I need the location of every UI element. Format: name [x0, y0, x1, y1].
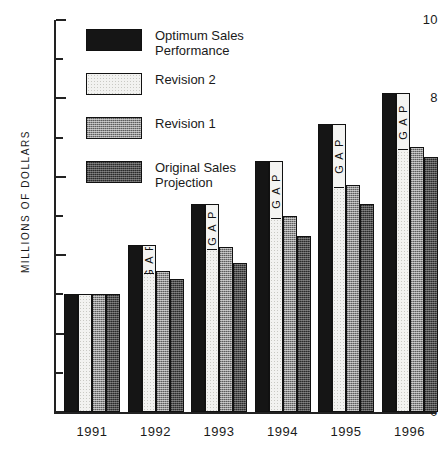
- y-axis-title: MILLIONS OF DOLLARS: [20, 127, 31, 277]
- bar-rev1-1991: [92, 294, 106, 412]
- legend-swatch-rev2: [86, 73, 142, 95]
- bar-rev1-1994: [283, 216, 297, 412]
- x-axis-line: [54, 412, 436, 414]
- gap-annotation: G A P: [334, 126, 344, 188]
- x-tick-label-1991: 1991: [60, 424, 124, 439]
- legend: Optimum Sales PerformanceRevision 2Revis…: [86, 28, 286, 204]
- bar-optimum-1996: [382, 93, 396, 412]
- bar-original-1991: [106, 294, 120, 412]
- bar-rev1-1992: [156, 271, 170, 412]
- gap-annotation: G A P: [144, 247, 154, 273]
- legend-label-rev1: Revision 1: [155, 116, 216, 131]
- legend-item-rev2[interactable]: Revision 2: [86, 72, 286, 108]
- bar-optimum-1993: [191, 204, 205, 412]
- gap-annotation-label: G A P: [144, 247, 154, 273]
- bar-original-1992: [170, 279, 184, 412]
- bar-chart: MILLIONS OF DOLLARS 0246810 G A PG A PG …: [0, 0, 438, 461]
- legend-swatch-optimum: [86, 29, 142, 51]
- bar-rev2-1995: G A P: [332, 124, 346, 412]
- bar-optimum-1995: [318, 124, 332, 412]
- bar-rev1-1996: [410, 147, 424, 412]
- bar-rev2-1991: [78, 294, 92, 412]
- x-tick-label-1996: 1996: [378, 424, 438, 439]
- bar-optimum-1991: [64, 294, 78, 412]
- gap-annotation: G A P: [398, 95, 408, 151]
- bar-rev2-1996: G A P: [396, 93, 410, 412]
- x-tick-label-1993: 1993: [187, 424, 251, 439]
- bar-original-1995: [360, 204, 374, 412]
- x-tick-label-1995: 1995: [314, 424, 378, 439]
- bar-optimum-1992: [128, 245, 142, 412]
- legend-item-original[interactable]: Original Sales Projection: [86, 160, 286, 196]
- legend-label-optimum: Optimum Sales Performance: [155, 28, 244, 58]
- gap-annotation-label: G A P: [398, 104, 408, 140]
- legend-swatch-rev1: [86, 117, 142, 139]
- legend-item-optimum[interactable]: Optimum Sales Performance: [86, 28, 286, 64]
- legend-label-rev2: Revision 2: [155, 72, 216, 87]
- bar-original-1996: [424, 157, 438, 412]
- bar-rev2-1993: G A P: [205, 204, 219, 412]
- legend-item-rev1[interactable]: Revision 1: [86, 116, 286, 152]
- bar-group: G A P: [382, 20, 438, 412]
- x-tick-label-1994: 1994: [251, 424, 315, 439]
- bar-rev2-1992: G A P: [142, 245, 156, 412]
- x-tick-label-1992: 1992: [124, 424, 188, 439]
- gap-annotation: G A P: [207, 206, 217, 250]
- gap-annotation-label: G A P: [334, 138, 344, 174]
- gap-annotation-label: G A P: [207, 210, 217, 246]
- bar-original-1994: [297, 236, 311, 412]
- bar-group: G A P: [318, 20, 376, 412]
- bar-rev1-1995: [346, 185, 360, 412]
- legend-label-original: Original Sales Projection: [155, 160, 236, 190]
- bar-original-1993: [233, 263, 247, 412]
- legend-swatch-original: [86, 161, 142, 183]
- bar-rev1-1993: [219, 247, 233, 412]
